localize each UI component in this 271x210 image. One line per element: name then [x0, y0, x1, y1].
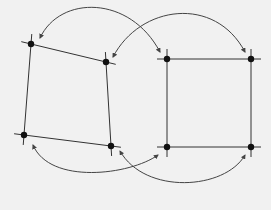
vertex-dot	[28, 41, 34, 47]
correspondence-arrow-bottom-br	[120, 151, 245, 183]
quadrilateral-edge	[105, 52, 111, 156]
square	[157, 49, 261, 157]
vertex-dot	[108, 143, 114, 149]
projective-mapping-diagram	[0, 0, 271, 210]
vertex-dot	[248, 144, 254, 150]
vertex-dot	[164, 144, 170, 150]
correspondence-arrow-top-tl	[40, 7, 160, 52]
quadrilateral-edge	[14, 134, 121, 148]
vertex-dot	[103, 59, 109, 65]
vertex-dot	[21, 132, 27, 138]
quadrilateral	[14, 34, 121, 156]
correspondence-arrow-bottom-bl	[33, 145, 158, 173]
arrows-group	[33, 7, 245, 182]
quadrilateral-edge	[21, 42, 115, 65]
vertex-dot	[164, 56, 170, 62]
quadrilateral-edge	[23, 34, 32, 145]
correspondence-arrow-top-tr	[113, 13, 245, 57]
shapes-group	[14, 34, 261, 157]
vertex-dot	[248, 56, 254, 62]
